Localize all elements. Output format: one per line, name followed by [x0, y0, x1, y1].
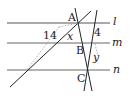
- label-var-y: y: [93, 52, 99, 63]
- geometry-diagram: A 14 x 4 B y C l m n: [0, 0, 130, 102]
- label-line-m: m: [112, 37, 122, 48]
- label-line-n: n: [113, 64, 120, 75]
- label-point-b: B: [76, 45, 84, 56]
- label-point-a: A: [68, 12, 76, 23]
- label-value-14: 14: [43, 30, 57, 41]
- label-point-c: C: [77, 73, 85, 84]
- label-var-x: x: [67, 31, 73, 42]
- label-value-4: 4: [94, 27, 101, 38]
- diagram-lines: [0, 0, 130, 102]
- label-line-l: l: [113, 16, 117, 27]
